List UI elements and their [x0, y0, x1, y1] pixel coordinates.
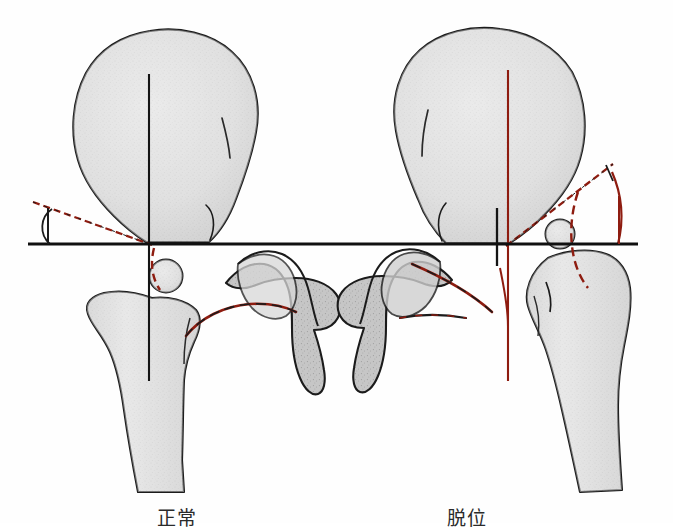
right-proximal-femur	[527, 251, 631, 492]
left-ischiopubic-bone	[226, 251, 340, 394]
left-panel-normal	[33, 29, 340, 492]
left-panel-caption: 正常	[157, 503, 197, 530]
right-panel-caption: 脱位	[447, 503, 487, 530]
right-ischiopubic-bone	[338, 249, 452, 392]
right-ilium	[394, 28, 584, 243]
left-proximal-femur	[87, 292, 200, 492]
right-teardrop-arc	[500, 268, 508, 326]
right-panel-dislocated	[338, 28, 631, 492]
left-ilium	[73, 29, 257, 242]
